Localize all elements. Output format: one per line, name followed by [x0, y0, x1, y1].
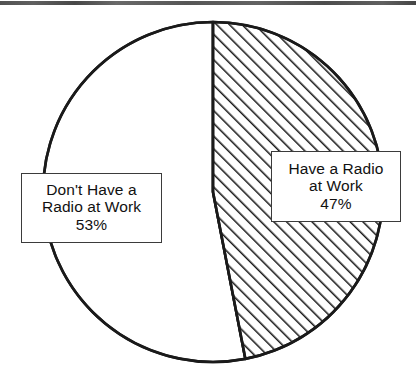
callout-right-line-1: Have a Radio [272, 160, 400, 177]
callout-right-line-2: at Work [272, 177, 400, 194]
callout-right-value: 47% [272, 195, 400, 212]
callout-left-line-2: Radio at Work [22, 198, 161, 215]
callout-left-value: 53% [22, 216, 161, 233]
pie-chart-figure: Don't Have a Radio at Work 53% Have a Ra… [0, 0, 416, 370]
callout-label-have-radio: Have a Radio at Work 47% [271, 151, 401, 222]
callout-label-dont-have-radio: Don't Have a Radio at Work 53% [21, 173, 162, 243]
callout-left-line-1: Don't Have a [22, 181, 161, 198]
